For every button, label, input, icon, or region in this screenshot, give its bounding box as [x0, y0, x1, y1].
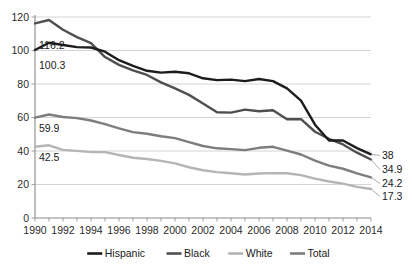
y-tick-label: 40: [17, 145, 29, 157]
legend-label-hispanic[interactable]: Hispanic: [105, 247, 145, 259]
x-tick-label: 2010: [303, 224, 327, 236]
start-value-label-total: 59.9: [39, 122, 60, 134]
start-value-label-black: 116.2: [39, 39, 65, 51]
start-value-label-white: 42.5: [39, 151, 60, 163]
x-tick-label: 2002: [191, 224, 215, 236]
x-tick-label: 2014: [359, 224, 383, 236]
legend-label-black[interactable]: Black: [184, 247, 210, 259]
x-tick-label: 1998: [135, 224, 159, 236]
series-line-black: [35, 20, 371, 160]
start-value-labels: 116.2100.359.942.5: [39, 39, 65, 163]
series-line-white: [35, 145, 371, 189]
x-tick-label: 2008: [275, 224, 299, 236]
end-value-label-white: 17.3: [382, 190, 403, 202]
y-tick-label: 60: [17, 111, 29, 123]
x-tick-label: 1992: [51, 224, 75, 236]
end-value-label-total: 24.2: [382, 177, 403, 189]
series-line-hispanic: [35, 43, 371, 155]
end-value-label-black: 34.9: [382, 163, 403, 175]
x-tick-label: 2004: [219, 224, 243, 236]
y-tick-label: 20: [17, 178, 29, 190]
axes: [35, 15, 371, 218]
y-tick-label: 80: [17, 78, 29, 90]
x-tick-label: 2012: [331, 224, 355, 236]
y-axis-tick-labels: 020406080100120: [11, 11, 35, 224]
leader-line: [371, 160, 380, 170]
end-value-labels: 3834.924.217.3: [371, 149, 403, 202]
legend-label-white[interactable]: White: [246, 247, 273, 259]
x-tick-label: 2000: [163, 224, 187, 236]
leader-line: [371, 177, 380, 183]
data-series-lines: [35, 20, 371, 189]
series-line-total: [35, 114, 371, 177]
gridlines: [35, 17, 371, 185]
x-tick-label: 2006: [247, 224, 271, 236]
x-tick-label: 1996: [107, 224, 131, 236]
x-axis-tick-labels: 1990199219941996199820002002200420062008…: [23, 224, 383, 236]
end-value-label-hispanic: 38: [382, 149, 394, 161]
x-tick-label: 1990: [23, 224, 47, 236]
start-value-label-hispanic: 100.3: [39, 59, 65, 71]
chart-legend: HispanicBlackWhiteTotal: [87, 247, 329, 259]
leader-line: [371, 189, 380, 196]
chart-canvas: 020406080100120 199019921994199619982000…: [0, 0, 412, 269]
line-chart: 020406080100120 199019921994199619982000…: [0, 0, 412, 269]
y-tick-label: 120: [11, 11, 29, 23]
y-tick-label: 0: [23, 212, 29, 224]
legend-label-total[interactable]: Total: [308, 247, 330, 259]
y-tick-label: 100: [11, 44, 29, 56]
leader-line: [371, 154, 380, 155]
x-tick-label: 1994: [79, 224, 103, 236]
